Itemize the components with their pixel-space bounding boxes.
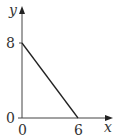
- y-axis-arrow-icon: [19, 6, 25, 14]
- y-tick-label-8: 8: [6, 35, 15, 51]
- y-axis: [19, 6, 25, 118]
- x-axis: [18, 115, 113, 121]
- x-axis-label: x: [104, 119, 112, 135]
- y-axis-label: y: [8, 2, 18, 18]
- y-tick-label-0: 0: [6, 110, 15, 126]
- x-tick-label-0: 0: [18, 122, 27, 138]
- chart: y 8 0 0 6 x: [0, 0, 119, 138]
- x-tick-label-6: 6: [74, 122, 83, 138]
- data-line: [22, 43, 78, 118]
